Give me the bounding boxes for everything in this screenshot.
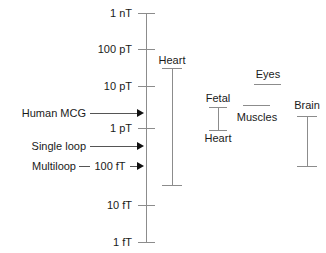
range-label-eyes: Eyes [246,69,290,80]
marker-leader-multiloop-right [130,166,137,167]
axis-tick-label-1fT: 1 fT [55,237,132,248]
marker-arrow-multiloop [137,162,144,170]
axis-tick-1fT [138,242,155,243]
range-stem [307,116,308,167]
range-cap-bottom [209,130,227,131]
magnetic-field-strength-chart: 1 nT 100 pT 10 pT 1 pT 10 fT 1 fT Human … [0,0,326,253]
range-stem [172,68,173,186]
axis-tick-100pT [138,49,155,50]
marker-label-human-mcg: Human MCG [0,108,86,119]
range-marker-muscles [243,105,270,106]
range-label-heart-top: Heart [150,55,194,66]
axis-tick-1nT [138,13,155,14]
range-marker-eyes [254,84,281,85]
range-stem [218,107,219,131]
range-bar-fetal-heart [209,107,227,131]
axis-tick-label-1pT: 1 pT [55,123,132,134]
range-label-brain: Brain [288,100,326,111]
axis-tick-label-100fT: 100 fT [91,161,129,172]
marker-leader-single-loop [90,146,137,147]
range-label-fetal-bottom: Heart [196,133,240,144]
range-bar-heart [162,68,182,186]
axis-tick-label-1nT: 1 nT [55,8,132,19]
range-cap-bottom [162,185,182,186]
axis-tick-10fT [138,205,155,206]
axis-tick-label-10fT: 10 fT [55,200,132,211]
marker-arrow-human-mcg [137,109,144,117]
marker-leader-human-mcg [90,113,137,114]
marker-label-multiloop: Multiloop [0,161,76,172]
marker-arrow-single-loop [137,142,144,150]
range-cap-bottom [297,166,317,167]
axis-tick-1pT [138,128,155,129]
range-bar-brain [297,116,317,167]
marker-leader-multiloop-left [79,166,90,167]
range-label-muscles: Muscles [234,112,280,123]
axis-tick-label-100pT: 100 pT [55,44,132,55]
axis-tick-10pT [138,86,155,87]
axis-tick-label-10pT: 10 pT [55,81,132,92]
range-label-fetal-top: Fetal [196,93,240,104]
marker-label-single-loop: Single loop [0,141,86,152]
